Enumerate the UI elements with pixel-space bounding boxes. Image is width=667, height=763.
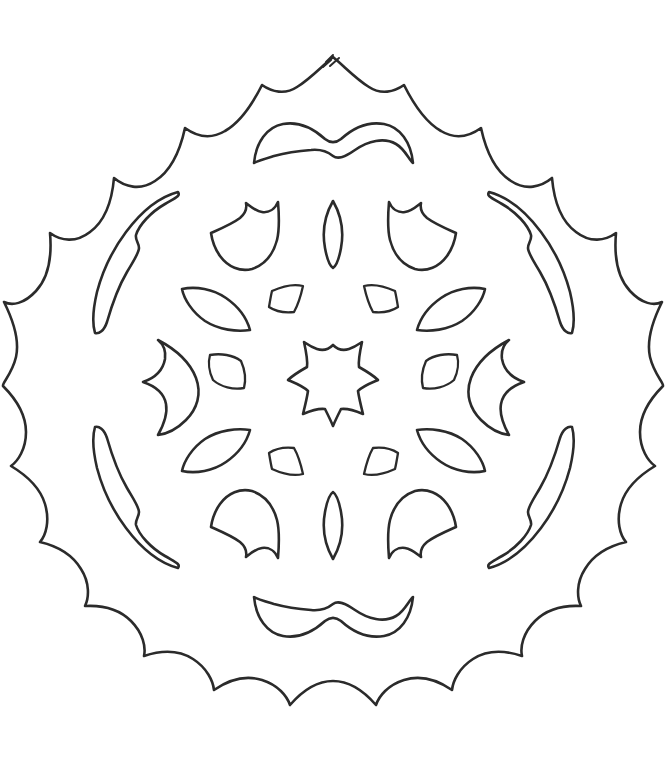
paper-background bbox=[0, 0, 667, 763]
coloring-page-canvas bbox=[0, 0, 667, 763]
snowflake-mandala-artwork bbox=[0, 0, 667, 763]
